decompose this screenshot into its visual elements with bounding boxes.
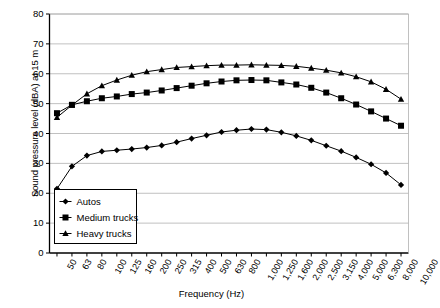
legend-label: Heavy trucks [77,228,132,239]
y-tick-label: 40 [22,129,44,139]
y-tick-label: 0 [22,248,44,258]
legend-label: Medium trucks [77,212,139,223]
y-tick-label: 20 [22,188,44,198]
y-tick-label: 30 [22,158,44,168]
y-tick-label: 10 [22,218,44,228]
y-tick-label: 60 [22,69,44,79]
y-tick-label: 80 [22,9,44,19]
y-tick-label: 70 [22,39,44,49]
y-tick-label: 50 [22,99,44,109]
legend-label: Autos [77,196,102,207]
